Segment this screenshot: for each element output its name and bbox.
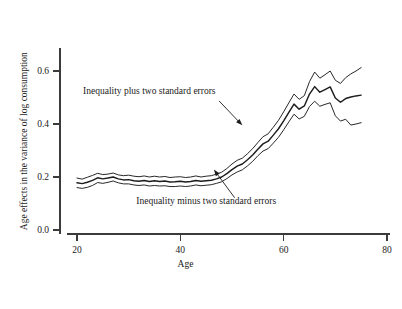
lower-band-annotation-arrowhead bbox=[214, 170, 220, 177]
upper-band-annotation-text: Inequality plus two standard errors bbox=[83, 86, 216, 96]
series-line-0 bbox=[77, 68, 361, 180]
x-axis-ticks: 20406080 bbox=[72, 234, 392, 255]
lower-band-annotation-arrow bbox=[216, 173, 234, 198]
x-tick-label: 80 bbox=[382, 245, 392, 255]
x-tick-label: 20 bbox=[72, 245, 82, 255]
chart-axes: 20406080 0.00.20.40.6 bbox=[37, 48, 392, 255]
chart-annotations: Inequality plus two standard errorsInequ… bbox=[83, 86, 276, 207]
upper-band-annotation-arrow bbox=[219, 101, 239, 122]
line-chart: 20406080 0.00.20.40.6 Inequality plus tw… bbox=[0, 0, 402, 309]
x-axis-title: Age bbox=[178, 259, 194, 269]
y-tick-label: 0.0 bbox=[37, 225, 49, 235]
x-tick-label: 40 bbox=[176, 245, 186, 255]
y-axis-ticks: 0.00.20.40.6 bbox=[37, 66, 60, 235]
y-tick-label: 0.4 bbox=[37, 119, 49, 129]
y-tick-label: 0.2 bbox=[37, 172, 49, 182]
y-tick-label: 0.6 bbox=[37, 66, 49, 76]
x-tick-label: 60 bbox=[279, 245, 289, 255]
chart-figure: 20406080 0.00.20.40.6 Inequality plus tw… bbox=[0, 0, 402, 309]
y-axis-title: Age effects in the variance of log consu… bbox=[19, 52, 29, 230]
lower-band-annotation-text: Inequality minus two standard errors bbox=[136, 196, 276, 206]
